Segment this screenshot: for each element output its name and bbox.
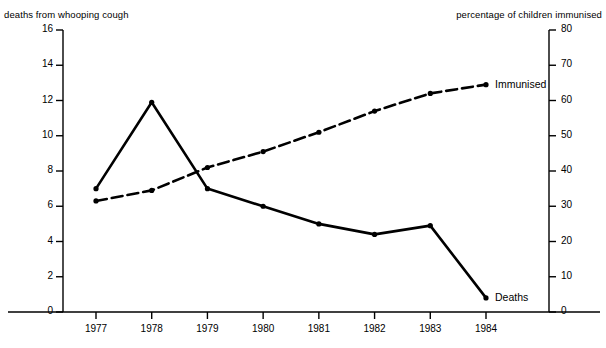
x-axis-ticks xyxy=(96,312,486,319)
data-point-deaths xyxy=(205,186,210,191)
left-axis-tick-label: 10 xyxy=(15,129,53,140)
right-axis-tick-label: 50 xyxy=(561,129,601,140)
data-point-immunised xyxy=(149,188,154,193)
right-axis-tick-label: 60 xyxy=(561,94,601,105)
x-axis-tick-label: 1981 xyxy=(289,323,349,334)
data-point-deaths xyxy=(372,232,377,237)
left-axis-tick-label: 2 xyxy=(15,270,53,281)
x-axis-tick-label: 1977 xyxy=(66,323,126,334)
series-line-deaths xyxy=(96,102,486,298)
left-axis-tick-label: 6 xyxy=(15,199,53,210)
x-axis-tick-label: 1980 xyxy=(233,323,293,334)
data-point-immunised xyxy=(93,198,98,203)
series-line-immunised xyxy=(96,85,486,201)
x-axis-tick-label: 1978 xyxy=(122,323,182,334)
data-point-deaths xyxy=(261,204,266,209)
data-point-immunised xyxy=(483,82,488,87)
data-point-deaths xyxy=(428,223,433,228)
x-axis-tick-label: 1983 xyxy=(400,323,460,334)
right-axis-tick-label: 40 xyxy=(561,164,601,175)
left-axis-tick-label: 12 xyxy=(15,94,53,105)
x-axis-tick-label: 1982 xyxy=(345,323,405,334)
left-axis-tick-label: 14 xyxy=(15,58,53,69)
series-label-deaths: Deaths xyxy=(495,291,528,303)
data-point-immunised xyxy=(261,149,266,154)
x-axis-tick-label: 1979 xyxy=(177,323,237,334)
data-point-deaths xyxy=(316,221,321,226)
left-axis-tick-label: 0 xyxy=(15,305,53,316)
data-point-immunised xyxy=(372,108,377,113)
chart-container: deaths from whooping cough percentage of… xyxy=(0,0,606,348)
right-axis-tick-label: 70 xyxy=(561,58,601,69)
x-axis-tick-label: 1984 xyxy=(456,323,516,334)
data-point-immunised xyxy=(428,91,433,96)
left-axis-ticks xyxy=(56,30,63,312)
data-series-layer xyxy=(93,82,488,300)
right-axis-tick-label: 80 xyxy=(561,23,601,34)
data-point-deaths xyxy=(149,100,154,105)
data-point-deaths xyxy=(483,295,488,300)
right-axis-tick-label: 20 xyxy=(561,235,601,246)
left-axis-tick-label: 4 xyxy=(15,235,53,246)
axis-lines xyxy=(8,30,600,312)
data-point-immunised xyxy=(205,165,210,170)
right-axis-ticks xyxy=(549,30,556,312)
data-point-deaths xyxy=(93,186,98,191)
series-label-immunised: Immunised xyxy=(495,78,546,90)
left-axis-tick-label: 16 xyxy=(15,23,53,34)
data-point-immunised xyxy=(316,130,321,135)
right-axis-tick-label: 0 xyxy=(561,305,601,316)
left-axis-tick-label: 8 xyxy=(15,164,53,175)
right-axis-tick-label: 10 xyxy=(561,270,601,281)
right-axis-tick-label: 30 xyxy=(561,199,601,210)
